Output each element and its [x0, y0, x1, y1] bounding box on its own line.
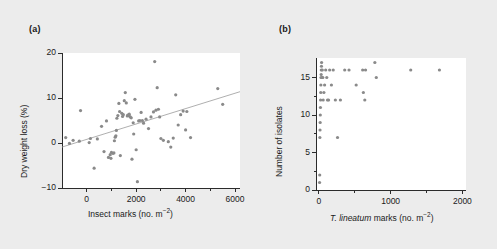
exponent: −2 [163, 207, 170, 214]
data-point [362, 91, 365, 94]
data-point [320, 65, 323, 68]
scatter-b-canvas [258, 0, 497, 249]
x-axis-label-a: Insect marks (no. m−2) [88, 209, 173, 219]
data-point [328, 68, 331, 71]
data-point [334, 98, 337, 101]
data-point [162, 139, 165, 142]
data-point [364, 68, 367, 71]
data-point [182, 109, 185, 112]
data-point [144, 118, 147, 121]
data-point [373, 61, 376, 64]
exponent: −2 [423, 211, 430, 218]
data-point [185, 110, 188, 113]
data-point [169, 145, 172, 148]
data-point [68, 142, 71, 145]
data-point [321, 76, 324, 79]
data-point [102, 150, 105, 153]
data-point [93, 167, 96, 170]
y-tick-label: 10 [284, 109, 310, 119]
data-point [322, 91, 325, 94]
data-point [409, 68, 412, 71]
data-point [184, 128, 187, 131]
data-point [130, 158, 133, 161]
data-point [319, 121, 322, 124]
data-point [117, 102, 120, 105]
figure-container: (a) Dry weight loss (%) Insect marks (no… [0, 0, 497, 249]
data-point [149, 115, 152, 118]
data-point [100, 125, 103, 128]
data-point [112, 151, 115, 154]
data-point [140, 111, 143, 114]
data-point [189, 136, 192, 139]
data-point [172, 136, 175, 139]
data-point [339, 98, 342, 101]
data-point [153, 60, 156, 63]
data-point [324, 68, 327, 71]
data-point [105, 119, 108, 122]
data-point [320, 61, 323, 64]
data-point [130, 116, 133, 119]
y-tick-label: 20 [30, 47, 56, 57]
data-point [142, 122, 145, 125]
data-point [375, 76, 378, 79]
data-point [136, 180, 139, 183]
x-tick-label: 2000 [442, 196, 482, 206]
data-point [157, 108, 160, 111]
data-point [135, 148, 138, 151]
data-point [361, 68, 364, 71]
data-point [318, 173, 321, 176]
data-point [321, 68, 324, 71]
data-point [179, 113, 182, 116]
data-point [79, 109, 82, 112]
data-point [174, 93, 177, 96]
y-tick-label: 0 [284, 184, 310, 194]
data-point [221, 103, 224, 106]
data-point [363, 98, 366, 101]
x-tick-label: 0 [67, 194, 107, 204]
data-point [147, 127, 150, 130]
y-axis-label-b: Number of isolates [274, 106, 284, 177]
data-point [330, 83, 333, 86]
x-axis-label-b: T. lineatum marks (no. m−2) [330, 213, 433, 223]
data-point [122, 113, 125, 116]
data-point [322, 98, 325, 101]
y-tick-label: 0 [30, 137, 56, 147]
data-point [78, 140, 81, 143]
y-tick-label: 10 [30, 92, 56, 102]
data-point [158, 115, 161, 118]
x-tick-label: 0 [299, 196, 339, 206]
species-name: T. lineatum [330, 213, 371, 223]
data-point [336, 136, 339, 139]
data-point [156, 86, 159, 89]
x-tick-label: 6000 [215, 194, 255, 204]
data-point [327, 98, 330, 101]
data-point [320, 73, 323, 76]
data-point [318, 136, 321, 139]
data-point [124, 91, 127, 94]
panel-a: (a) Dry weight loss (%) Insect marks (no… [0, 0, 258, 249]
panel-b: (b) Number of isolates T. lineatum marks… [258, 0, 497, 249]
data-point [96, 137, 99, 140]
data-point [319, 83, 322, 86]
data-point [343, 68, 346, 71]
x-tick-label: 4000 [166, 194, 206, 204]
data-point [114, 134, 117, 137]
y-tick-label: 15 [284, 72, 310, 82]
data-point [325, 76, 328, 79]
x-tick-label: 1000 [371, 196, 411, 206]
data-point [125, 101, 128, 104]
y-tick-label: 5 [284, 147, 310, 157]
data-point [113, 139, 116, 142]
data-point [438, 68, 441, 71]
data-point [323, 83, 326, 86]
data-point [72, 139, 75, 142]
data-point [89, 137, 92, 140]
data-point [355, 83, 358, 86]
data-point [132, 121, 135, 124]
data-point [109, 157, 112, 160]
data-point [318, 181, 321, 184]
data-point [64, 136, 67, 139]
data-point [332, 68, 335, 71]
data-point [216, 87, 219, 90]
data-point [319, 91, 322, 94]
